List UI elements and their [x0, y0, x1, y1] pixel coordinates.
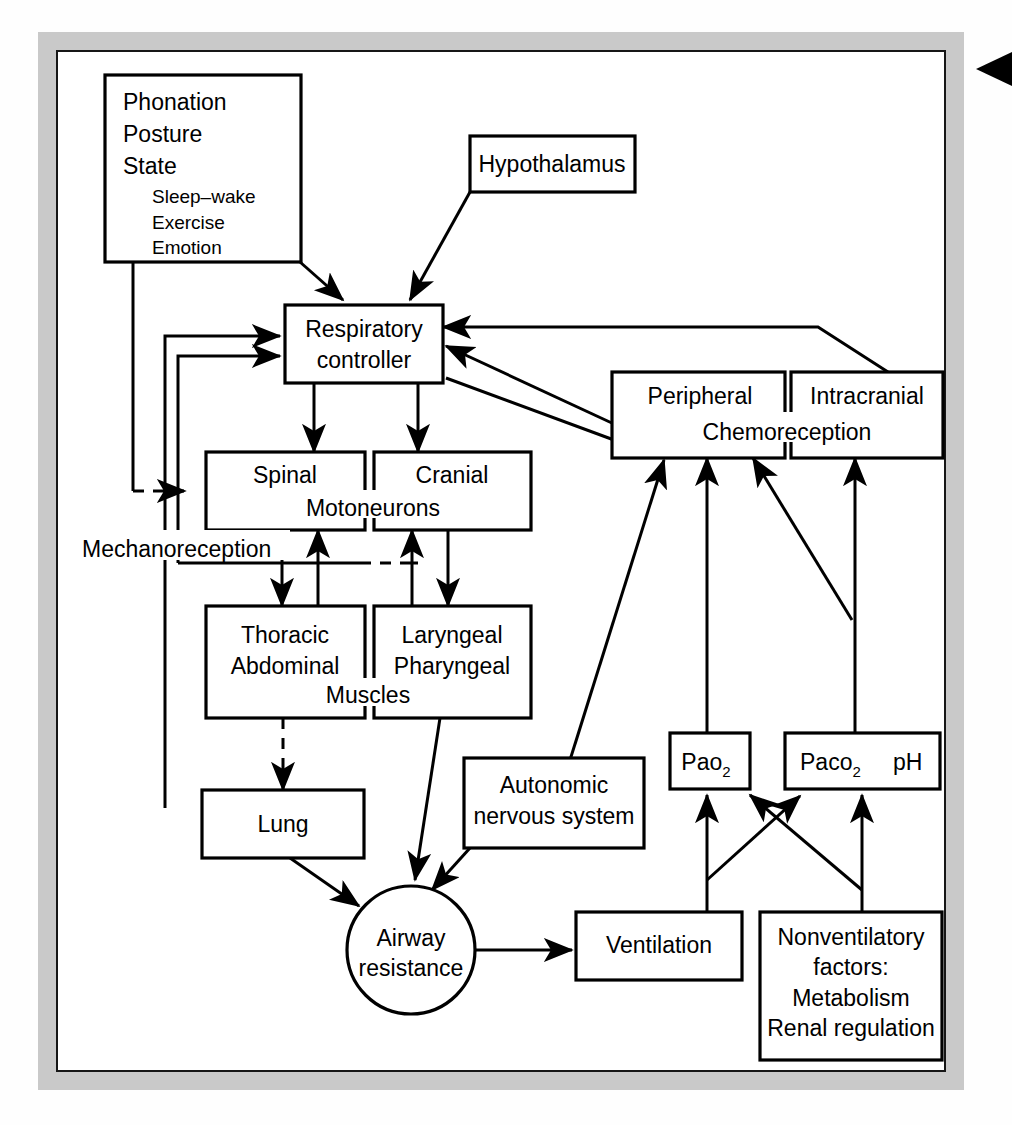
- node-hypothalamus[interactable]: Hypothalamus: [470, 136, 635, 192]
- phonation-line-1: Posture: [123, 121, 202, 147]
- edge-paco2-to-peripheral: [753, 458, 852, 620]
- node-nonventilatory-factors[interactable]: Nonventilatory factors: Metabolism Renal…: [760, 912, 942, 1060]
- respiratory-control-diagram: Phonation Posture State Sleep–wake Exerc…: [0, 0, 1012, 1125]
- edge-ventilation-to-paco2: [707, 796, 800, 880]
- nonventilatory-line1: Nonventilatory: [777, 924, 925, 950]
- pao2-sub: 2: [722, 763, 730, 780]
- nonventilatory-line3: Metabolism: [792, 985, 910, 1011]
- intracranial-label: Intracranial: [810, 383, 924, 409]
- respiratory-controller-line1: Respiratory: [305, 316, 423, 342]
- edge-phonation-to-controller: [300, 262, 343, 300]
- figure-page: Phonation Posture State Sleep–wake Exerc…: [0, 0, 1012, 1125]
- pao2-base: Pao: [681, 749, 722, 775]
- edge-autonomic-to-peripheral: [570, 460, 664, 760]
- node-phonation-posture-state[interactable]: Phonation Posture State Sleep–wake Exerc…: [105, 75, 301, 262]
- phonation-line-0: Phonation: [123, 89, 227, 115]
- phonation-sub-2: Emotion: [152, 237, 222, 258]
- node-respiratory-controller[interactable]: Respiratory controller: [285, 305, 443, 383]
- nonventilatory-line2: factors:: [813, 954, 888, 980]
- mechanoreception-label: Mechanoreception: [82, 536, 271, 562]
- edge-nonventilatory-to-pao2: [750, 795, 862, 890]
- ph-label: pH: [893, 749, 922, 775]
- phonation-sub-1: Exercise: [152, 212, 225, 233]
- laryngeal-line2: Pharyngeal: [394, 653, 510, 679]
- node-lung[interactable]: Lung: [202, 790, 364, 858]
- edge-peripheral-to-controller-b: [446, 378, 614, 440]
- edge-autonomic-to-airway: [432, 848, 470, 890]
- autonomic-line2: nervous system: [473, 803, 634, 829]
- respiratory-controller-line2: controller: [317, 347, 412, 373]
- nonventilatory-line4: Renal regulation: [767, 1015, 935, 1041]
- paco2-sub: 2: [852, 763, 860, 780]
- phonation-sub-0: Sleep–wake: [152, 186, 256, 207]
- peripheral-label: Peripheral: [648, 383, 753, 409]
- edge-hypothalamus-to-controller: [410, 192, 470, 300]
- spinal-label: Spinal: [253, 462, 317, 488]
- node-airway-resistance[interactable]: Airway resistance: [347, 886, 475, 1014]
- edge-lung-to-airway: [290, 858, 359, 906]
- edge-peripheral-to-controller-a: [446, 346, 614, 424]
- paco2-base: Paco: [800, 749, 852, 775]
- edge-intracranial-to-controller: [443, 327, 888, 372]
- cranial-label: Cranial: [416, 462, 489, 488]
- hypothalamus-label: Hypothalamus: [478, 151, 625, 177]
- edge-laryngeal-to-airway: [415, 718, 440, 880]
- edge-lung-to-controller-feedback: [165, 336, 280, 808]
- airway-line1: Airway: [376, 925, 446, 951]
- node-autonomic-nervous-system[interactable]: Autonomic nervous system: [464, 758, 644, 848]
- thoracic-line2: Abdominal: [231, 653, 340, 679]
- thoracic-line1: Thoracic: [241, 622, 329, 648]
- airway-line2: resistance: [359, 955, 464, 981]
- node-paco2-ph[interactable]: Paco2 pH: [785, 733, 940, 789]
- muscles-label: Muscles: [326, 682, 410, 708]
- node-pao2[interactable]: Pao2: [670, 733, 750, 789]
- chemoreception-label: Chemoreception: [703, 419, 872, 445]
- autonomic-line1: Autonomic: [500, 772, 609, 798]
- lung-label: Lung: [257, 811, 308, 837]
- laryngeal-line1: Laryngeal: [401, 622, 502, 648]
- ventilation-label: Ventilation: [606, 932, 712, 958]
- node-ventilation[interactable]: Ventilation: [576, 912, 742, 980]
- phonation-line-2: State: [123, 153, 177, 179]
- motoneurons-label: Motoneurons: [306, 495, 440, 521]
